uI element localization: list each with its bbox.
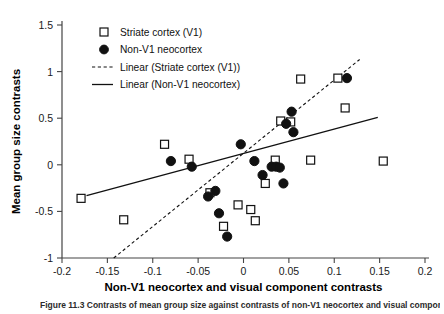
data-point-nonv1 xyxy=(214,209,223,218)
x-axis-title: Non-V1 neocortex and visual component co… xyxy=(105,281,383,293)
data-point-striate xyxy=(261,179,269,187)
legend-label: Striate cortex (V1) xyxy=(120,27,202,38)
data-point-nonv1 xyxy=(287,107,296,116)
data-point-nonv1 xyxy=(342,74,351,83)
x-tick-label: 0 xyxy=(241,265,247,277)
x-tick-label: -0.1 xyxy=(144,265,162,277)
y-tick-label: 1.5 xyxy=(38,19,53,31)
y-tick-label: 0.5 xyxy=(38,112,53,124)
top-margin-strip xyxy=(0,0,444,7)
data-point-nonv1 xyxy=(282,119,291,128)
x-tick-label: -0.2 xyxy=(53,265,71,277)
figure-panel: -0.2-0.15-0.1-0.0500.050.10.150.2-1-0.50… xyxy=(0,0,444,314)
x-tick-label: 0.15 xyxy=(369,265,390,277)
fit-line-nonv1 xyxy=(87,117,378,195)
y-tick-label: 0 xyxy=(47,159,53,171)
data-point-striate xyxy=(234,201,242,209)
data-point-nonv1 xyxy=(250,156,259,165)
y-tick-label: 1 xyxy=(47,66,53,78)
y-axis-title: Mean group size contrasts xyxy=(10,69,22,214)
data-point-striate xyxy=(297,75,305,83)
legend-label: Linear (Striate cortex (V1)) xyxy=(120,62,240,73)
legend-marker-nonv1 xyxy=(100,45,109,54)
legend-label: Non-V1 neocortex xyxy=(120,44,202,55)
data-point-nonv1 xyxy=(223,232,232,241)
data-point-nonv1 xyxy=(258,170,267,179)
data-point-striate xyxy=(77,194,85,202)
data-point-striate xyxy=(341,104,349,112)
data-point-striate xyxy=(247,206,255,214)
data-point-nonv1 xyxy=(236,140,245,149)
data-point-striate xyxy=(220,222,228,230)
x-tick-label: 0.2 xyxy=(418,265,433,277)
x-tick-label: -0.05 xyxy=(186,265,210,277)
legend-label: Linear (Non-V1 neocortex) xyxy=(120,79,240,90)
x-tick-label: 0.05 xyxy=(279,265,300,277)
legend-marker-striate xyxy=(100,28,108,36)
y-tick-label: -1 xyxy=(44,252,53,264)
data-point-nonv1 xyxy=(279,179,288,188)
data-point-striate xyxy=(251,217,259,225)
x-tick-label: 0.1 xyxy=(327,265,342,277)
data-point-nonv1 xyxy=(289,128,298,137)
data-point-striate xyxy=(307,156,315,164)
y-tick-label: -0.5 xyxy=(35,205,53,217)
data-point-striate xyxy=(120,216,128,224)
data-point-nonv1 xyxy=(187,162,196,171)
data-point-nonv1 xyxy=(275,163,284,172)
data-point-striate xyxy=(334,74,342,82)
data-point-striate xyxy=(161,140,169,148)
data-point-nonv1 xyxy=(211,186,220,195)
x-tick-label: -0.15 xyxy=(95,265,119,277)
data-point-nonv1 xyxy=(166,156,175,165)
data-point-striate xyxy=(379,157,387,165)
figure-caption: Figure 11.3 Contrasts of mean group size… xyxy=(40,300,440,310)
scatter-plot: -0.2-0.15-0.1-0.0500.050.10.150.2-1-0.50… xyxy=(0,0,444,296)
